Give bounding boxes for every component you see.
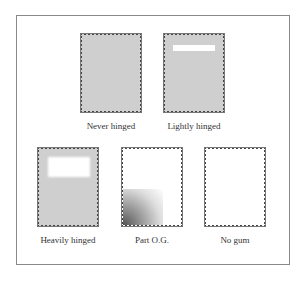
diagram-frame <box>16 15 290 265</box>
stamp-part-og <box>121 147 183 227</box>
partial-gum-area <box>123 189 163 225</box>
stamp-never-hinged <box>80 33 142 113</box>
label-lightly-hinged: Lightly hinged <box>144 121 244 131</box>
label-no-gum: No gum <box>185 235 285 245</box>
stamp-heavily-hinged <box>37 147 99 227</box>
stamp-no-gum <box>204 147 266 227</box>
hinge-mark <box>48 157 90 177</box>
stamp-lightly-hinged <box>163 33 225 113</box>
hinge-mark <box>173 45 215 51</box>
